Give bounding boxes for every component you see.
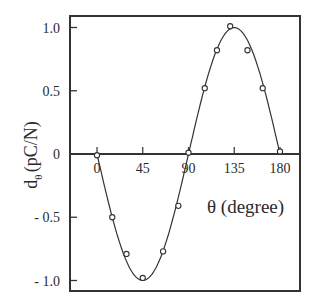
- data-point: [245, 48, 250, 53]
- y-tick-label: - 0.5: [34, 210, 60, 225]
- data-point: [260, 86, 265, 91]
- data-markers: [94, 24, 282, 281]
- data-point: [202, 86, 207, 91]
- y-axis-title: dθ(pC/N): [21, 121, 44, 188]
- x-tick-label: 45: [136, 161, 150, 176]
- data-point: [228, 24, 233, 29]
- svg-text:dθ(pC/N): dθ(pC/N): [21, 121, 44, 188]
- y-axis-title-unit: (pC/N): [21, 121, 42, 172]
- y-tick-label: - 1.0: [34, 274, 60, 289]
- data-point: [176, 203, 181, 208]
- x-axis-ticks: 04590135180: [94, 147, 291, 176]
- data-point: [160, 249, 165, 254]
- data-point: [140, 275, 145, 280]
- x-tick-label: 180: [270, 161, 291, 176]
- x-tick-label: 135: [224, 161, 245, 176]
- data-point: [110, 215, 115, 220]
- data-point: [94, 153, 99, 158]
- data-point: [124, 251, 129, 256]
- x-axis-title: θ (degree): [207, 196, 284, 218]
- y-axis-title-sub: θ: [32, 174, 44, 179]
- y-tick-label: 0.5: [43, 84, 61, 99]
- y-axis-title-main: d: [21, 180, 41, 189]
- data-point: [277, 149, 282, 154]
- data-point: [186, 150, 191, 155]
- data-point: [214, 48, 219, 53]
- y-tick-label: 1.0: [43, 21, 61, 36]
- y-tick-label: 0: [53, 147, 60, 162]
- chart: 1.00.50- 0.5- 1.0 04590135180 θ (degree)…: [0, 0, 314, 303]
